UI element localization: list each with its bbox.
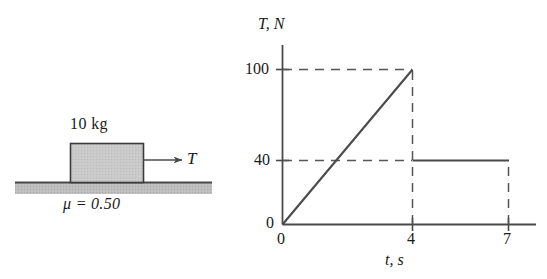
ground-surface <box>15 182 212 194</box>
x-axis-title-text: t, s <box>385 251 404 268</box>
physics-figure: 10 kg T μ = 0.50 T, N t, s 100 40 0 0 4 … <box>0 0 547 279</box>
y-axis-title: T, N <box>258 16 284 32</box>
x-tick-label-0: 0 <box>277 231 285 247</box>
friction-coefficient-label: μ = 0.50 <box>63 196 120 212</box>
block-diagram-group <box>15 144 212 195</box>
y-axis-title-text: T, N <box>258 15 284 32</box>
mass-block <box>71 144 144 183</box>
chart-group <box>276 45 536 231</box>
tension-force-label: T <box>187 150 196 167</box>
x-tick-label-4: 4 <box>407 231 415 247</box>
x-tick-label-7: 7 <box>503 231 511 247</box>
data-ramp-segment <box>283 70 413 225</box>
y-tick-label-40: 40 <box>254 152 270 168</box>
y-tick-label-0: 0 <box>266 215 274 231</box>
figure-canvas <box>0 0 547 279</box>
x-axis-title: t, s <box>385 252 404 268</box>
mass-label: 10 kg <box>70 116 108 132</box>
y-tick-label-100: 100 <box>245 61 269 77</box>
